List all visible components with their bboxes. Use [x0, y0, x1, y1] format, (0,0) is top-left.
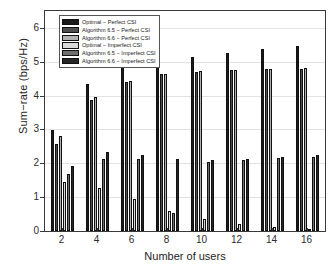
bar	[308, 229, 311, 231]
x-tick-label: 16	[295, 234, 319, 245]
bar	[269, 69, 272, 231]
bar	[125, 82, 128, 231]
legend-swatch	[62, 27, 79, 33]
bar	[106, 152, 109, 231]
bar	[277, 158, 280, 231]
x-tick-label: 2	[50, 234, 74, 245]
bar	[63, 182, 66, 231]
bar	[199, 71, 202, 231]
bar	[191, 57, 194, 231]
x-tick-label: 10	[190, 234, 214, 245]
bar	[102, 159, 105, 231]
bar	[168, 211, 171, 231]
bar	[121, 67, 124, 231]
bar	[304, 68, 307, 231]
bar	[316, 155, 319, 231]
legend-item: Algorithm 6.6 − Perfect CSI	[62, 34, 156, 41]
bar	[300, 69, 303, 231]
y-tick-label: 0	[19, 226, 39, 236]
x-tick-mark	[167, 228, 168, 232]
x-tick-mark	[272, 228, 273, 232]
legend-item: Algorithm 6.6 − Imperfect CSI	[62, 57, 156, 64]
x-tick-mark	[97, 228, 98, 232]
x-tick-label: 14	[260, 234, 284, 245]
bar	[67, 174, 70, 231]
bar	[172, 213, 175, 231]
y-axis-label: Sum−rate (bps/Hz)	[17, 6, 29, 166]
legend-swatch	[62, 35, 79, 41]
bar	[312, 157, 315, 231]
legend: Optimal − Perfect CSIAlgorithm 6.5 − Per…	[59, 15, 160, 68]
bar	[261, 49, 264, 231]
x-tick-mark	[132, 228, 133, 232]
bar	[246, 159, 249, 231]
bar	[203, 219, 206, 231]
bar	[176, 159, 179, 231]
bar	[71, 166, 74, 231]
bar	[160, 74, 163, 231]
legend-item: Optimal − Imperfect CSI	[62, 42, 156, 49]
bar	[281, 157, 284, 231]
legend-item: Algorithm 6.5 − Imperfect CSI	[62, 50, 156, 57]
bar	[90, 100, 93, 231]
bar	[156, 61, 159, 231]
bar	[211, 160, 214, 231]
legend-label: Algorithm 6.5 − Imperfect CSI	[82, 50, 156, 56]
bar-group	[191, 11, 215, 231]
bar	[296, 46, 299, 231]
legend-item: Optimal − Perfect CSI	[62, 18, 156, 25]
bar	[226, 53, 229, 231]
bar	[133, 199, 136, 231]
x-tick-mark	[202, 228, 203, 232]
x-tick-label: 6	[120, 234, 144, 245]
bar	[98, 188, 101, 231]
legend-label: Algorithm 6.6 − Perfect CSI	[82, 35, 150, 41]
legend-label: Algorithm 6.6 − Imperfect CSI	[82, 58, 156, 64]
legend-label: Algorithm 6.5 − Perfect CSI	[82, 27, 150, 33]
bar	[86, 84, 89, 231]
legend-swatch	[62, 19, 79, 25]
bar	[230, 70, 233, 231]
x-tick-mark	[237, 228, 238, 232]
legend-item: Algorithm 6.5 − Perfect CSI	[62, 26, 156, 33]
bar	[234, 70, 237, 231]
legend-label: Optimal − Perfect CSI	[82, 19, 136, 25]
bar	[129, 81, 132, 231]
bar	[265, 69, 268, 231]
x-tick-mark	[62, 228, 63, 232]
x-axis: 246810121416	[44, 232, 326, 250]
bar	[141, 155, 144, 231]
bar	[238, 224, 241, 231]
legend-swatch	[62, 50, 79, 56]
bar	[273, 227, 276, 231]
bar	[51, 130, 54, 231]
bar	[55, 144, 58, 231]
x-tick-label: 8	[155, 234, 179, 245]
x-tick-label: 4	[85, 234, 109, 245]
bar-group	[296, 11, 320, 231]
plot-area: Optimal − Perfect CSIAlgorithm 6.5 − Per…	[44, 10, 326, 232]
x-axis-label: Number of users	[44, 250, 326, 262]
x-tick-label: 12	[225, 234, 249, 245]
bar	[59, 136, 62, 231]
y-tick-label: 1	[19, 192, 39, 202]
bar	[137, 159, 140, 231]
legend-swatch	[62, 58, 79, 64]
bar	[242, 160, 245, 231]
bar-group	[226, 11, 250, 231]
figure-chart-sumrate: 0123456 Sum−rate (bps/Hz) Optimal − Perf…	[0, 0, 336, 270]
x-tick-mark	[307, 228, 308, 232]
legend-swatch	[62, 42, 79, 48]
bar	[164, 74, 167, 231]
bar	[207, 162, 210, 231]
bar	[195, 72, 198, 231]
legend-label: Optimal − Imperfect CSI	[82, 42, 142, 48]
bar	[94, 97, 97, 231]
bar-group	[261, 11, 285, 231]
